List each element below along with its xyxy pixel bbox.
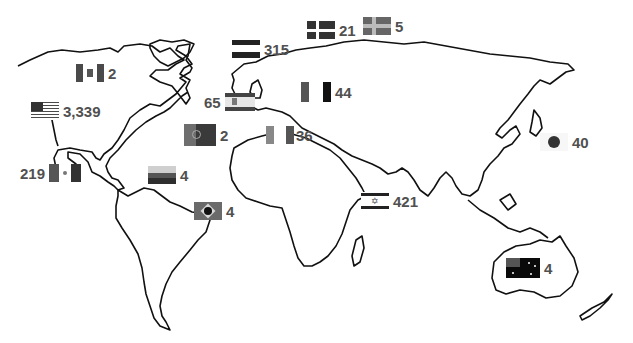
marker-canada[interactable]: 2 [76, 64, 116, 82]
marker-romania[interactable]: 44 [301, 82, 352, 102]
count-label: 219 [20, 165, 45, 182]
count-label: 44 [335, 84, 352, 101]
portugal-flag-icon [184, 124, 216, 146]
spain-flag-icon [225, 93, 255, 111]
count-label: 2 [108, 65, 116, 82]
japan-flag-icon [540, 133, 568, 151]
marker-japan[interactable]: 40 [540, 133, 589, 151]
marker-spain[interactable]: 65 [204, 93, 255, 111]
count-label: 4 [544, 260, 552, 277]
count-label: 5 [395, 18, 403, 35]
venezuela-flag-icon [148, 166, 176, 184]
marker-portugal[interactable]: 2 [184, 124, 228, 146]
marker-united-states[interactable]: 3,339 [31, 102, 101, 120]
germany-flag-icon [232, 40, 260, 58]
sweden-flag-icon [363, 17, 391, 35]
us-flag-icon [31, 102, 59, 120]
denmark-flag-icon [307, 21, 335, 39]
madagascar-outline [352, 236, 364, 266]
marker-brazil[interactable]: 4 [194, 202, 234, 220]
world-map-outline [0, 0, 633, 343]
marker-australia[interactable]: 4 [506, 258, 552, 278]
israel-flag-icon: ✡ [361, 192, 389, 210]
marker-denmark[interactable]: 21 [307, 21, 356, 39]
count-label: 3,339 [63, 103, 101, 120]
marker-sweden[interactable]: 5 [363, 17, 403, 35]
australia-flag-icon [506, 258, 540, 278]
count-label: 4 [226, 203, 234, 220]
canada-flag-icon [76, 64, 104, 82]
marker-germany[interactable]: 315 [232, 40, 289, 58]
count-label: 65 [204, 94, 221, 111]
italy-flag-icon [266, 126, 294, 144]
count-label: 4 [180, 167, 188, 184]
marker-italy[interactable]: 36 [266, 126, 313, 144]
marker-mexico[interactable]: 219 [20, 164, 81, 182]
eurasia-outline [232, 40, 574, 196]
romania-flag-icon [301, 82, 331, 102]
new-zealand-outline [580, 294, 612, 320]
indonesia-outline [468, 194, 548, 238]
brazil-flag-icon [194, 202, 222, 220]
mexico-flag-icon [49, 164, 81, 182]
count-label: 421 [393, 193, 418, 210]
count-label: 21 [339, 22, 356, 39]
marker-israel[interactable]: ✡ 421 [361, 192, 418, 210]
count-label: 40 [572, 134, 589, 151]
marker-venezuela[interactable]: 4 [148, 166, 188, 184]
count-label: 315 [264, 41, 289, 58]
count-label: 36 [296, 127, 313, 144]
count-label: 2 [220, 127, 228, 144]
